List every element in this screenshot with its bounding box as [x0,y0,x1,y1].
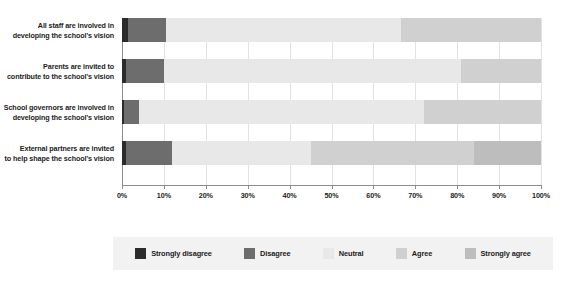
category-label-line: contribute to the school's vision [0,72,114,82]
x-axis-tick [415,185,416,189]
bar-segment-neutral[interactable] [164,59,461,83]
bar-stack [122,18,541,42]
x-axis-tick-label: 70% [408,191,422,200]
legend-item-neutral[interactable]: Neutral [323,248,364,259]
x-axis-tick [499,185,500,189]
bar-segment-disagree[interactable] [128,18,166,42]
bar-segment-disagree[interactable] [126,141,172,165]
chart-legend: Strongly disagreeDisagreeNeutralAgreeStr… [113,237,553,270]
x-axis-tick-label: 10% [157,191,171,200]
bar-row[interactable] [122,141,541,165]
bar-segment-neutral[interactable] [139,100,424,124]
x-axis-tick [332,185,333,189]
bar-segment-neutral[interactable] [172,141,310,165]
bar-segment-disagree[interactable] [124,100,139,124]
legend-item-strongly-agree[interactable]: Strongly agree [465,248,531,259]
bar-row[interactable] [122,18,541,42]
gridline-100% [541,18,542,185]
bar-row[interactable] [122,100,541,124]
x-axis-tick-label: 20% [199,191,213,200]
x-axis-tick [164,185,165,189]
plot-area [122,18,541,185]
bar-stack [122,59,541,83]
category-label-line: developing the school's vision [0,113,114,123]
legend-swatch-icon [244,248,255,259]
stacked-bar-chart: All staff are involved indeveloping the … [0,0,563,283]
bar-segment-agree[interactable] [311,141,474,165]
x-axis-tick-label: 80% [450,191,464,200]
x-axis-tick [122,185,123,189]
legend-swatch-icon [465,248,476,259]
legend-swatch-icon [135,248,146,259]
x-axis-tick [290,185,291,189]
bar-stack [122,141,541,165]
legend-label: Neutral [339,249,364,258]
bar-segment-agree[interactable] [401,18,541,42]
legend-label: Agree [412,249,432,258]
legend-label: Disagree [260,249,290,258]
x-axis-tick-label: 100% [532,191,550,200]
x-axis-tick-label: 0% [117,191,127,200]
category-label: Parents are invited tocontribute to the … [0,62,114,81]
category-label-line: External partners are invited [0,144,114,154]
category-label-line: developing the school's vision [0,31,114,41]
x-axis-tick [373,185,374,189]
x-axis-tick-label: 50% [324,191,338,200]
category-label: External partners are invitedto help sha… [0,144,114,163]
x-axis-tick [541,185,542,189]
legend-item-disagree[interactable]: Disagree [244,248,290,259]
x-axis-tick-label: 90% [492,191,506,200]
x-axis-tick-label: 40% [283,191,297,200]
legend-label: Strongly agree [481,249,531,258]
legend-swatch-icon [323,248,334,259]
legend-swatch-icon [396,248,407,259]
bar-segment-agree[interactable] [461,59,541,83]
x-axis-tick-label: 30% [241,191,255,200]
legend-item-agree[interactable]: Agree [396,248,432,259]
x-axis-tick [457,185,458,189]
bar-row[interactable] [122,59,541,83]
category-label-line: School governors are involved in [0,103,114,113]
legend-label: Strongly disagree [151,249,212,258]
x-axis-tick [248,185,249,189]
category-label-line: All staff are involved in [0,21,114,31]
category-label: All staff are involved indeveloping the … [0,21,114,40]
bar-segment-agree[interactable] [424,100,541,124]
category-label-line: to help shape the school's vision [0,154,114,164]
x-axis-tick-label: 60% [366,191,380,200]
category-label-line: Parents are invited to [0,62,114,72]
bar-segment-neutral[interactable] [166,18,401,42]
category-label: School governors are involved indevelopi… [0,103,114,122]
bar-segment-disagree[interactable] [126,59,164,83]
x-axis-tick [206,185,207,189]
bar-segment-strongly-agree[interactable] [474,141,541,165]
legend-item-strongly-disagree[interactable]: Strongly disagree [135,248,212,259]
bar-stack [122,100,541,124]
